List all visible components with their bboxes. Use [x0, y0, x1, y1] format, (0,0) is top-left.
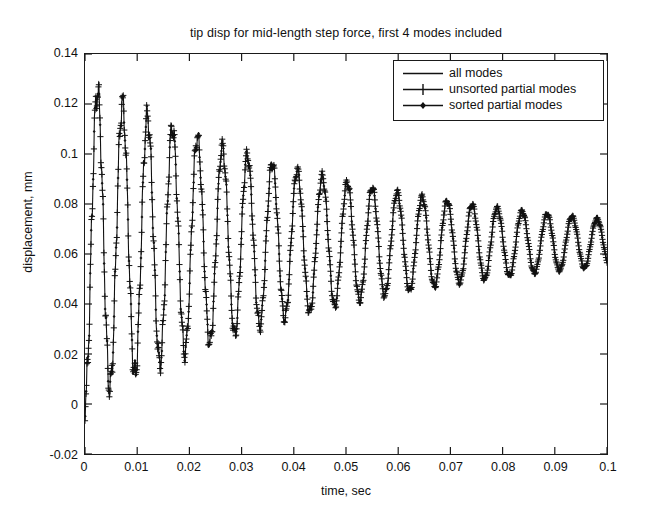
x-tick-label: 0.05	[334, 461, 358, 474]
legend-label: sorted partial modes	[446, 99, 562, 112]
x-tick-label: 0	[81, 461, 88, 474]
x-tick-label: 0.09	[543, 461, 567, 474]
x-tick-label: 0.01	[124, 461, 148, 474]
series-sorted-partial-modes	[85, 92, 607, 418]
series-unsorted-partial-modes	[85, 82, 607, 424]
legend-marker-diamond-icon	[400, 98, 446, 113]
x-tick-label: 0.07	[439, 461, 463, 474]
y-tick-label: 0.04	[30, 298, 78, 311]
legend-marker-plus-icon	[400, 82, 446, 97]
x-tick-label: 0.06	[386, 461, 410, 474]
x-tick-label: 0.1	[599, 461, 616, 474]
x-tick-label: 0.08	[491, 461, 515, 474]
x-tick-label: 0.02	[177, 461, 201, 474]
legend-item: all modes	[400, 66, 597, 81]
y-tick-label: 0.14	[30, 47, 78, 60]
y-axis-label: displacement, mm	[21, 132, 35, 312]
figure-chart: tip disp for mid-length step force, firs…	[0, 0, 651, 512]
y-tick-label: 0.06	[30, 248, 78, 261]
x-axis-tick-labels: 00.010.020.030.040.050.060.070.080.090.1	[0, 461, 651, 481]
y-tick-label: 0.12	[30, 97, 78, 110]
legend-label: all modes	[446, 67, 503, 80]
y-tick-label: 0.1	[30, 148, 78, 161]
x-tick-label: 0.04	[281, 461, 305, 474]
legend-label: unsorted partial modes	[446, 83, 576, 96]
legend: all modesunsorted partial modessorted pa…	[393, 60, 604, 121]
legend-item: unsorted partial modes	[400, 82, 597, 97]
y-tick-label: 0.08	[30, 198, 78, 211]
legend-marker-none-icon	[400, 66, 446, 81]
x-tick-label: 0.03	[229, 461, 253, 474]
y-tick-label: 0.02	[30, 349, 78, 362]
x-axis-label: time, sec	[84, 484, 608, 498]
y-tick-label: -0.02	[30, 449, 78, 462]
y-tick-label: 0	[30, 399, 78, 412]
chart-title: tip disp for mid-length step force, firs…	[84, 26, 608, 40]
legend-item: sorted partial modes	[400, 98, 597, 113]
